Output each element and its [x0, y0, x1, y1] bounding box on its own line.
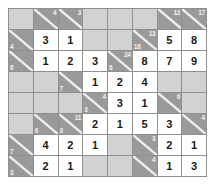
entry-value: 3	[83, 51, 107, 71]
entry-cell[interactable]: 5	[133, 114, 157, 134]
entry-cell[interactable]: 3	[83, 51, 107, 71]
entry-cell[interactable]: 5	[158, 30, 182, 50]
entry-cell[interactable]: 8	[182, 30, 206, 50]
entry-cell[interactable]: 2	[34, 156, 58, 176]
entry-cell[interactable]: 2	[59, 51, 83, 71]
clue-down-value: 3	[78, 9, 81, 16]
blocked-cell	[59, 93, 83, 113]
entry-cell[interactable]: 1	[182, 135, 206, 155]
clue-down-value: 13	[149, 30, 156, 37]
entry-cell[interactable]: 1	[83, 72, 107, 92]
blocked-cell	[9, 9, 33, 29]
blocked-cell	[83, 156, 107, 176]
clue-across-value: 7	[60, 85, 63, 92]
entry-cell[interactable]: 2	[108, 72, 132, 92]
entry-cell[interactable]: 3	[182, 156, 206, 176]
entry-cell[interactable]: 1	[83, 135, 107, 155]
clue-down-value: 12	[173, 9, 180, 16]
entry-value: 9	[182, 51, 206, 71]
entry-cell[interactable]: 7	[158, 51, 182, 71]
blocked-cell	[83, 30, 107, 50]
entry-value: 1	[108, 114, 132, 134]
entry-cell[interactable]: 1	[108, 114, 132, 134]
clue-down-value: 4	[152, 156, 155, 163]
blocked-cell	[34, 93, 58, 113]
clue-down-value: 3	[152, 135, 155, 142]
clue-across-value: 18	[134, 43, 141, 50]
entry-cell[interactable]: 3	[34, 30, 58, 50]
clue-across-value: 4	[10, 43, 13, 50]
clue-cell: 113	[59, 114, 83, 134]
clue-cell: 3	[133, 135, 157, 155]
entry-value: 2	[83, 114, 107, 134]
clue-across-value: 6	[10, 64, 13, 71]
entry-value: 3	[108, 93, 132, 113]
clue-cell: 12	[158, 9, 182, 29]
entry-value: 1	[182, 135, 206, 155]
entry-value: 8	[133, 51, 157, 71]
blocked-cell	[9, 114, 33, 134]
clue-across-value: 3	[60, 127, 63, 134]
blocked-cell	[108, 9, 132, 29]
clue-cell: 43	[83, 93, 107, 113]
entry-cell[interactable]: 2	[59, 135, 83, 155]
entry-cell[interactable]: 1	[59, 156, 83, 176]
entry-cell[interactable]: 9	[182, 51, 206, 71]
clue-cell: 7	[9, 135, 33, 155]
clue-cell: 6	[9, 51, 33, 71]
entry-value: 3	[34, 30, 58, 50]
clue-down-value: 6	[177, 93, 180, 100]
blocked-cell	[108, 135, 132, 155]
blocked-cell	[182, 93, 206, 113]
entry-value: 1	[83, 72, 107, 92]
entry-cell[interactable]: 2	[83, 114, 107, 134]
clue-cell: 3	[59, 9, 83, 29]
blocked-cell	[182, 72, 206, 92]
entry-cell[interactable]: 4	[34, 135, 58, 155]
blocked-cell	[133, 9, 157, 29]
entry-value: 2	[108, 72, 132, 92]
clue-across-value: 3	[84, 106, 87, 113]
blocked-cell	[83, 9, 107, 29]
clue-down-value: 11	[75, 114, 81, 121]
clue-cell: 7	[59, 72, 83, 92]
entry-value: 2	[59, 51, 83, 71]
clue-down-value: 4	[103, 93, 106, 100]
entry-cell[interactable]: 1	[34, 51, 58, 71]
blocked-cell	[34, 72, 58, 92]
entry-value: 1	[59, 156, 83, 176]
entry-cell[interactable]: 3	[158, 114, 182, 134]
entry-value: 5	[158, 30, 182, 50]
entry-cell[interactable]: 2	[158, 135, 182, 155]
entry-cell[interactable]: 1	[158, 156, 182, 176]
entry-value: 5	[133, 114, 157, 134]
entry-cell[interactable]: 1	[59, 30, 83, 50]
clue-across-value: 6	[109, 64, 112, 71]
entry-cell[interactable]: 4	[133, 72, 157, 92]
clue-cell: 246	[108, 51, 132, 71]
entry-value: 3	[158, 114, 182, 134]
blocked-cell	[158, 72, 182, 92]
entry-value: 7	[158, 51, 182, 71]
clue-across-value: 6	[35, 127, 38, 134]
clue-across-value: 3	[10, 169, 13, 176]
entry-cell[interactable]: 8	[133, 51, 157, 71]
entry-cell[interactable]: 3	[108, 93, 132, 113]
kakuro-puzzle: 4312174311318586123246879712443316611321…	[8, 8, 207, 177]
clue-cell: 6	[34, 114, 58, 134]
entry-value: 2	[158, 135, 182, 155]
entry-value: 1	[59, 30, 83, 50]
blocked-cell	[9, 93, 33, 113]
entry-value: 8	[182, 30, 206, 50]
clue-cell: 1318	[133, 30, 157, 50]
entry-value: 4	[133, 72, 157, 92]
entry-value: 3	[182, 156, 206, 176]
entry-value: 4	[34, 135, 58, 155]
blocked-cell	[108, 30, 132, 50]
clue-cell: 4	[34, 9, 58, 29]
clue-cell: 6	[158, 93, 182, 113]
blocked-cell	[9, 72, 33, 92]
entry-cell[interactable]: 1	[133, 93, 157, 113]
entry-value: 2	[59, 135, 83, 155]
entry-value: 1	[133, 93, 157, 113]
